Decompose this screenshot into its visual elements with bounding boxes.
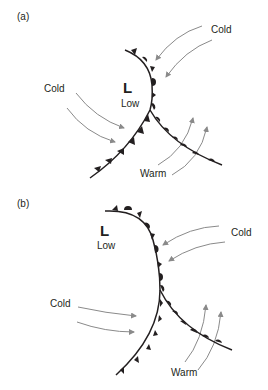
cold-arrow-icon <box>78 307 136 316</box>
warm-label: Warm <box>171 368 197 378</box>
cold-arrow-icon <box>77 322 134 332</box>
cold-arrow-icon <box>166 40 212 77</box>
warm-front <box>160 290 232 350</box>
cold-label-right: Cold <box>231 228 252 238</box>
cold-label-left: Cold <box>44 84 65 94</box>
panel-a: (a) L Low Cold Cold Warm <box>0 0 268 195</box>
warm-arrow-icon <box>158 118 193 165</box>
cold-arrow-icon <box>76 93 124 128</box>
panel-label: (b) <box>17 199 29 209</box>
low-pressure-symbol: L <box>100 223 109 238</box>
warm-label: Warm <box>140 169 166 179</box>
cold-arrow-icon <box>169 242 225 261</box>
panel-b-diagram <box>0 195 268 390</box>
cold-arrow-icon <box>163 226 219 245</box>
cold-label-left: Cold <box>50 299 71 309</box>
low-label: Low <box>97 241 115 251</box>
warm-arrow-icon <box>172 127 207 175</box>
warm-arrow-icon <box>185 305 206 362</box>
low-label: Low <box>121 99 139 109</box>
cold-arrow-icon <box>67 108 115 142</box>
cold-arrow-icon <box>156 26 202 60</box>
panel-b: (b) L Low Cold Cold Warm <box>0 195 268 390</box>
low-pressure-symbol: L <box>123 80 132 95</box>
cold-label-right: Cold <box>211 25 232 35</box>
panel-label: (a) <box>17 12 29 22</box>
